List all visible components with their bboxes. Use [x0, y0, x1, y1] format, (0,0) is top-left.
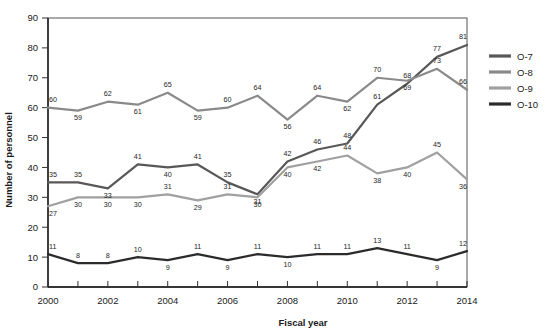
y-tick-label: 90: [27, 12, 38, 23]
y-tick-label: 60: [27, 102, 38, 113]
point-label: 40: [403, 170, 411, 179]
point-label: 30: [104, 200, 112, 209]
point-label: 30: [74, 200, 82, 209]
point-label: 56: [283, 122, 291, 131]
point-label: 68: [403, 71, 411, 80]
point-label: 65: [164, 80, 172, 89]
point-label: 9: [435, 263, 439, 272]
y-tick-label: 40: [27, 162, 38, 173]
point-label: 11: [49, 242, 56, 251]
point-label: 48: [343, 131, 351, 140]
point-label: 9: [226, 263, 230, 272]
x-tick-label: 2010: [337, 295, 358, 306]
point-label: 42: [283, 149, 291, 158]
point-label: 81: [459, 32, 467, 41]
legend-label-o-8: O-8: [517, 67, 533, 78]
x-axis-title: Fiscal year: [278, 317, 327, 328]
point-label: 40: [164, 170, 172, 179]
legend-label-o-7: O-7: [517, 51, 533, 62]
point-label: 11: [314, 242, 321, 251]
x-tick-label: 2002: [97, 295, 118, 306]
point-label: 13: [373, 236, 381, 245]
x-tick-label: 2014: [456, 295, 477, 306]
point-label: 45: [433, 140, 441, 149]
legend-label-o-9: O-9: [517, 83, 533, 94]
x-tick-label: 2006: [217, 295, 238, 306]
point-label: 41: [194, 152, 202, 161]
point-label: 33: [104, 191, 112, 200]
point-label: 8: [76, 251, 80, 260]
y-tick-label: 0: [33, 281, 38, 292]
point-label: 59: [194, 113, 202, 122]
chart-canvas: 0102030405060708090 20002002200420062008…: [0, 0, 547, 335]
point-label: 29: [194, 203, 202, 212]
point-label: 35: [49, 170, 57, 179]
point-label: 11: [403, 242, 410, 251]
point-label: 60: [224, 95, 232, 104]
point-label: 36: [459, 182, 467, 191]
point-label: 31: [224, 182, 232, 191]
point-label: 35: [224, 170, 232, 179]
x-tick-label: 2008: [277, 295, 298, 306]
point-label: 11: [194, 242, 201, 251]
point-label: 31: [164, 182, 172, 191]
point-label: 10: [134, 245, 142, 254]
line-chart: 0102030405060708090 20002002200420062008…: [0, 0, 547, 335]
point-label: 9: [166, 263, 170, 272]
y-tick-label: 80: [27, 42, 38, 53]
point-label: 27: [49, 209, 57, 218]
y-tick-label: 10: [27, 252, 38, 263]
y-tick-label: 70: [27, 72, 38, 83]
x-tick-label: 2004: [157, 295, 178, 306]
point-label: 77: [433, 44, 441, 53]
y-axis-tick-labels: 0102030405060708090: [27, 12, 38, 292]
point-label: 62: [104, 89, 112, 98]
point-label: 46: [313, 137, 321, 146]
y-tick-label: 50: [27, 132, 38, 143]
point-label: 35: [74, 170, 82, 179]
point-label: 30: [134, 200, 142, 209]
point-label: 64: [313, 83, 321, 92]
point-label: 70: [373, 65, 381, 74]
point-label: 11: [344, 242, 351, 251]
point-label: 66: [459, 77, 467, 86]
x-axis-tick-labels: 20002002200420062008201020122014: [37, 295, 477, 306]
point-label: 38: [373, 176, 381, 185]
point-label: 61: [134, 107, 142, 116]
point-label: 8: [106, 251, 110, 260]
y-axis-title: Number of personnel: [3, 112, 14, 208]
point-label: 12: [459, 239, 467, 248]
x-tick-label: 2012: [397, 295, 418, 306]
point-label: 11: [254, 242, 261, 251]
point-label: 44: [343, 143, 351, 152]
data-point-labels: 3535334140413531424648616877816059626165…: [49, 32, 467, 271]
y-tick-label: 30: [27, 192, 38, 203]
y-tick-label: 20: [27, 222, 38, 233]
point-label: 42: [313, 164, 321, 173]
point-label: 62: [343, 104, 351, 113]
chart-legend: O-7O-8O-9O-10: [489, 51, 538, 110]
point-label: 61: [373, 92, 381, 101]
point-label: 40: [283, 170, 291, 179]
legend-label-o-10: O-10: [517, 99, 538, 110]
point-label: 41: [134, 152, 142, 161]
point-label: 73: [433, 56, 441, 65]
x-tick-label: 2000: [37, 295, 58, 306]
point-label: 59: [74, 113, 82, 122]
point-label: 69: [403, 83, 411, 92]
point-label: 60: [49, 95, 57, 104]
point-label: 10: [283, 260, 291, 269]
point-label: 30: [254, 200, 262, 209]
point-label: 64: [254, 83, 262, 92]
